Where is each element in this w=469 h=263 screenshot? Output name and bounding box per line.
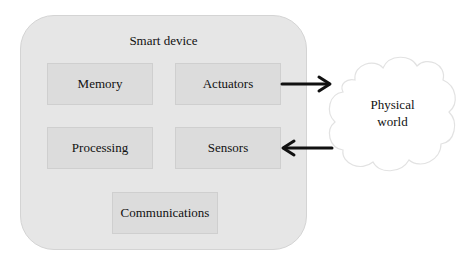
arrows-layer [0, 0, 469, 263]
arrow-world-to-sensors [283, 141, 332, 155]
arrow-actuators-to-world [282, 77, 330, 91]
